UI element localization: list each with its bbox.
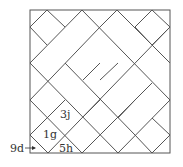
label-5h: 5h [59, 143, 73, 154]
label-3j: 3j [60, 109, 70, 120]
tiling-diagram [0, 0, 183, 167]
arrow-head-icon [32, 146, 36, 150]
label-1g: 1g [43, 129, 57, 140]
label-9d: 9d [10, 143, 24, 154]
